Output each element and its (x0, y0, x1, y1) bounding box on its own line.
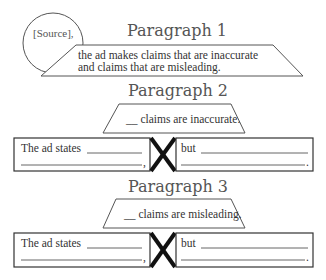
thesis-line-2: and claims that are misleading. (78, 61, 221, 74)
topic-sentence-3: __ claims are misleading. (123, 208, 242, 221)
paragraph-2-heading: Paragraph 2 (128, 81, 228, 100)
counter-box-right-3 (176, 233, 313, 267)
claim-lead-2: The ad states (21, 142, 82, 154)
paragraph-2-section: Paragraph 2 __ claims are inaccurate. Th… (14, 81, 313, 171)
essay-outline-diagram: [Source], Paragraph 1 the ad makes claim… (0, 0, 326, 280)
paragraph-1-heading: Paragraph 1 (127, 21, 227, 40)
counter-lead-2: but (181, 142, 197, 154)
topic-sentence-2: __ claims are inaccurate. (125, 113, 240, 125)
paragraph-3-heading: Paragraph 3 (128, 177, 228, 196)
x-mark-icon (151, 138, 175, 171)
counter-lead-3: but (181, 237, 197, 249)
counter-period-3: . (306, 251, 309, 263)
source-label: [Source], (33, 27, 74, 39)
claim-lead-3: The ad states (21, 237, 82, 249)
counter-period-2: . (306, 156, 309, 168)
x-mark-icon (151, 233, 175, 267)
counter-box-right-2 (176, 138, 313, 171)
paragraph-1-section: [Source], Paragraph 1 the ad makes claim… (23, 13, 303, 76)
paragraph-3-section: Paragraph 3 __ claims are misleading. Th… (14, 177, 313, 267)
claim-comma-3: , (143, 251, 146, 264)
thesis-line-1: the ad makes claims that are inaccurate (78, 49, 258, 61)
claim-comma-2: , (143, 156, 146, 169)
